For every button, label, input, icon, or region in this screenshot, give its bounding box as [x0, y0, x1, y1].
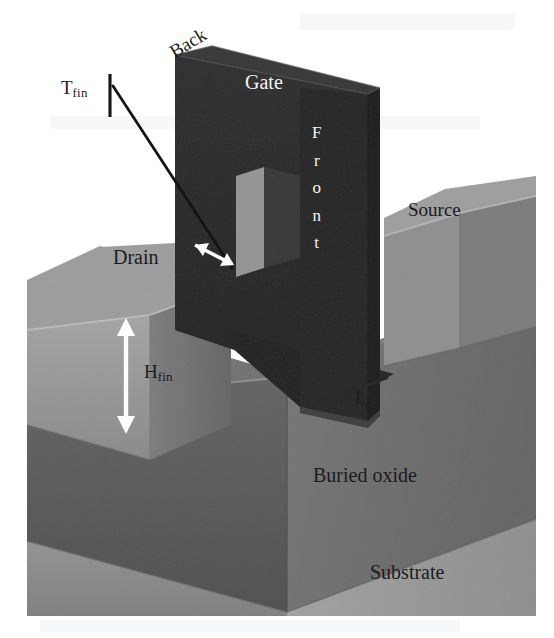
source-right-face — [460, 196, 536, 348]
finfet-3d-schematic — [0, 0, 554, 638]
gate-front-pillar-face — [300, 88, 368, 421]
gate-front-pillar-side — [368, 88, 380, 421]
gate-notch-fin-reveal — [236, 167, 264, 277]
source-front-face — [384, 213, 460, 366]
gate-notch-shadow — [264, 167, 300, 268]
finfet-figure-stage: Back Gate F r o n t Source Drain Tfin Hf… — [0, 0, 554, 638]
